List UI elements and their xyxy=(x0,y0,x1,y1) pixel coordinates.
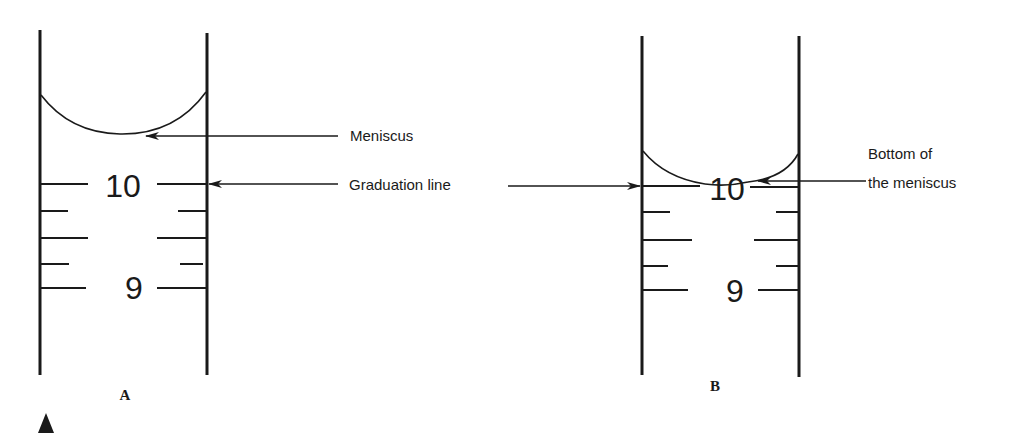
cylinder-a: 10 9 A xyxy=(40,30,207,403)
bottom-of-meniscus-label-line1: Bottom of xyxy=(868,145,933,162)
meniscus-diagram: 10 9 A Meniscus Graduation line 10 9 B xyxy=(0,0,1011,433)
graduation-number-10-a: 10 xyxy=(105,168,141,204)
panel-label-a: A xyxy=(120,387,131,403)
triangle-marker-icon xyxy=(38,413,54,433)
meniscus-curve-a xyxy=(41,92,206,134)
graduation-number-9-b: 9 xyxy=(726,273,744,309)
graduation-line-label: Graduation line xyxy=(349,176,451,193)
cylinder-b: 10 9 B xyxy=(642,36,799,394)
graduation-number-10-b: 10 xyxy=(709,171,745,207)
panel-label-b: B xyxy=(710,378,720,394)
graduation-number-9-a: 9 xyxy=(125,270,143,306)
meniscus-label: Meniscus xyxy=(350,127,413,144)
bottom-of-meniscus-label-line2: the meniscus xyxy=(868,174,956,191)
